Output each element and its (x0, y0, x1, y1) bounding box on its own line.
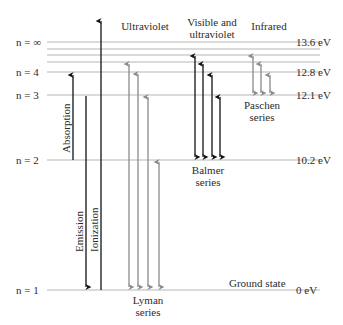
ionization-label: Ionization (88, 207, 100, 252)
region-label-visible-line1: Visible and (187, 16, 237, 28)
lyman-series-label-line2: series (135, 306, 160, 318)
level-label-n4: n = 4 (16, 66, 39, 78)
level-label-n2: n = 2 (16, 154, 39, 166)
diagram-graphics (0, 0, 343, 325)
balmer-series-label-line1: Balmer (192, 164, 224, 176)
lyman-series-arrows (129, 64, 159, 287)
level-label-n3: n = 3 (16, 89, 39, 101)
energy-label-12-8: 12.8 eV (296, 66, 331, 78)
level-label-n1: n = 1 (16, 284, 39, 296)
level-lines (47, 42, 320, 290)
region-label-visible-line2: ultraviolet (189, 28, 234, 40)
lyman-series-label-line1: Lyman (133, 294, 164, 306)
energy-label-12-1: 12.1 eV (296, 89, 331, 101)
energy-label-0: 0 eV (296, 284, 317, 296)
paschen-series-label-line2: series (249, 111, 274, 123)
balmer-series-label-line2: series (195, 176, 220, 188)
region-label-ultraviolet: Ultraviolet (121, 20, 169, 32)
absorption-label: Absorption (60, 104, 72, 154)
region-label-infrared: Infrared (251, 20, 286, 32)
energy-label-10-2: 10.2 eV (296, 154, 331, 166)
paschen-series-label-line1: Paschen (244, 99, 280, 111)
level-label-n-inf: n = ∞ (16, 36, 41, 48)
ground-state-label: Ground state (229, 277, 286, 289)
emission-label: Emission (73, 211, 85, 252)
balmer-series-arrows (195, 56, 220, 157)
energy-label-13-6: 13.6 eV (296, 36, 331, 48)
energy-level-diagram: Ultraviolet Visible and ultraviolet Infr… (0, 0, 343, 325)
